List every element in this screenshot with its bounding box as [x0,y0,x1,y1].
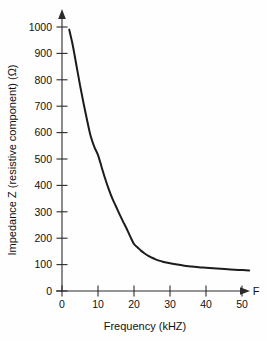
y-tick-label-700: 700 [34,100,52,112]
y-tick-label-800: 800 [34,74,52,86]
x-tick-label-50: 50 [236,298,248,310]
x-tick-label-0: 0 [59,298,65,310]
chart-figure: 0 100 200 300 400 500 600 700 800 900 10… [0,0,267,341]
y-tick-label-400: 400 [34,179,52,191]
x-tick-label-30: 30 [164,298,176,310]
y-tick-labels: 0 100 200 300 400 500 600 700 800 900 10… [29,21,53,297]
y-tick-label-200: 200 [34,232,52,244]
y-tick-label-0: 0 [46,285,52,297]
x-tick-label-10: 10 [92,298,104,310]
impedance-vs-frequency-chart: 0 100 200 300 400 500 600 700 800 900 10… [0,0,267,341]
x-tick-label-40: 40 [200,298,212,310]
y-tick-label-300: 300 [34,206,52,218]
y-tick-label-1000: 1000 [29,21,53,33]
x-axis [56,287,250,294]
impedance-curve [69,30,249,271]
y-tick-label-100: 100 [34,258,52,270]
y-tick-label-500: 500 [34,153,52,165]
x-tick-label-20: 20 [128,298,140,310]
x-axis-title: Frequency (kHZ) [104,320,187,332]
y-tick-label-900: 900 [34,47,52,59]
x-axis-end-label: F [253,285,260,297]
y-axis-arrow-icon [58,9,66,19]
y-axis [58,9,66,291]
y-tick-label-600: 600 [34,126,52,138]
y-axis-title: Impedance Z (resistive component) (Ω) [6,64,18,255]
x-tick-labels: 0 10 20 30 40 50 [59,298,248,310]
